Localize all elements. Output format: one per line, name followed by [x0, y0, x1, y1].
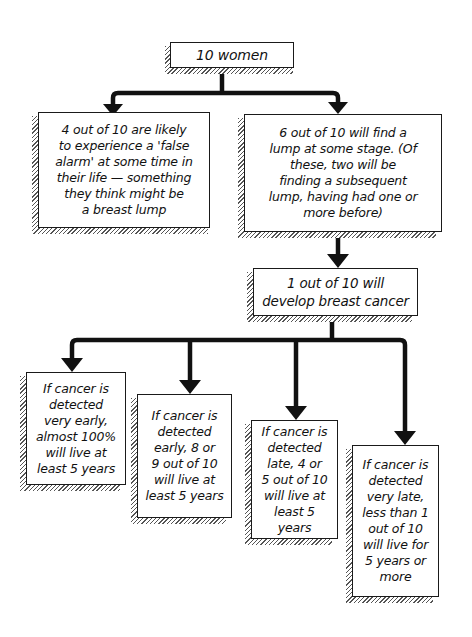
very-early-node: If cancer is detected very early, almost… — [26, 372, 126, 485]
very-late-node: If cancer is detected very late, less th… — [352, 445, 439, 597]
develop-cancer-node: 1 out of 10 will develop breast cancer — [253, 268, 418, 316]
early-node: If cancer is detected early, 8 or 9 out … — [137, 394, 232, 518]
arrowhead-icon — [285, 406, 307, 420]
find-lump-node: 6 out of 10 will find a lump at some sta… — [244, 114, 442, 232]
arrowhead-icon — [328, 102, 348, 114]
false-alarm-node: 4 out of 10 are likely to experience a '… — [38, 112, 210, 228]
arrowhead-icon — [327, 254, 349, 268]
arrowhead-icon — [179, 380, 201, 394]
arrowhead-icon — [394, 431, 416, 445]
root-node: 10 women — [170, 42, 294, 68]
late-node: If cancer is detected late, 4 or 5 out o… — [251, 420, 338, 539]
arrowhead-icon — [61, 358, 83, 372]
